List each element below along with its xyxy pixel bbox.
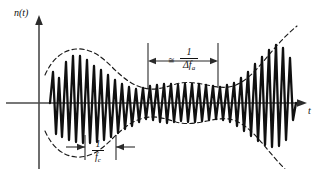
- envelope-period-denominator-base: Δf: [183, 59, 192, 70]
- envelope-period-left-arrowhead: [148, 58, 156, 64]
- envelope-period-denominator-subscript: a: [192, 64, 196, 72]
- carrier-period-numerator: 1: [92, 139, 104, 149]
- narrowband-noise-figure: n(t) t ≅ 1 Δfa 1 fc: [0, 0, 326, 169]
- carrier-period-label: 1 fc: [92, 139, 104, 164]
- envelope-period-denominator: Δfa: [180, 60, 198, 72]
- figure-canvas: [0, 0, 326, 169]
- carrier-period-denominator: fc: [92, 152, 104, 164]
- carrier-period-left-arrowhead: [77, 144, 85, 150]
- carrier-period-denominator-subscript: c: [98, 156, 101, 164]
- amplitude-axis-arrowhead: [35, 15, 43, 25]
- envelope-period-right-arrowhead: [210, 58, 218, 64]
- envelope-period-numerator: 1: [180, 47, 198, 57]
- envelope-period-label: 1 Δfa: [180, 47, 198, 72]
- carrier-period-right-arrowhead: [116, 144, 124, 150]
- time-axis-arrowhead: [297, 99, 307, 107]
- time-axis-label: t: [308, 106, 311, 116]
- amplitude-axis-label: n(t): [14, 8, 28, 18]
- approximately-equal-symbol: ≅: [168, 56, 175, 65]
